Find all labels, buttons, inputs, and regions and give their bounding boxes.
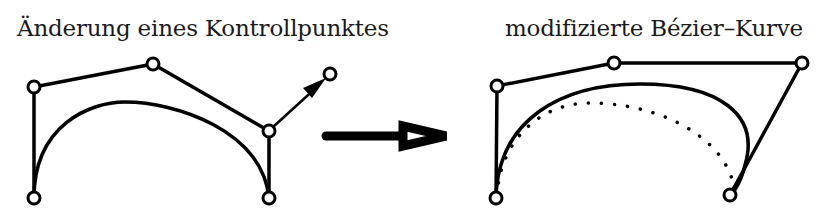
control-point[interactable] [491,80,503,92]
control-point[interactable] [28,81,40,93]
transition-arrow-icon [326,126,446,146]
left-panel [28,58,336,204]
control-point[interactable] [263,192,275,204]
left-bezier-curve [34,102,269,198]
control-point[interactable] [796,57,808,69]
right-panel [490,57,808,204]
left-control-polygon [34,64,269,198]
control-point[interactable] [263,125,275,137]
control-point[interactable] [724,189,736,201]
control-point[interactable] [147,58,159,70]
control-point[interactable] [28,192,40,204]
modified-bezier-curve [496,84,748,198]
control-point[interactable] [608,57,620,69]
control-point[interactable] [490,192,502,204]
bezier-diagram [0,0,834,218]
moved-control-point[interactable] [324,68,336,80]
